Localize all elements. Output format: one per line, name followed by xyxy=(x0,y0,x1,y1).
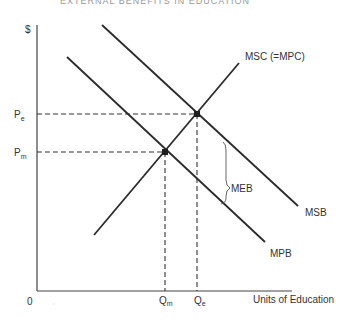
diagram-title: EXTERNAL BENEFITS IN EDUCATION xyxy=(60,0,250,6)
msb-label: MSB xyxy=(305,207,327,218)
pe-label: Pe xyxy=(14,109,25,122)
qm-label: Qm xyxy=(159,295,173,307)
meb-label: MEB xyxy=(231,183,253,194)
external-benefits-diagram: EXTERNAL BENEFITS IN EDUCATION $ 0 Units… xyxy=(0,0,361,324)
y-axis-label: $ xyxy=(25,24,31,35)
origin-label: 0 xyxy=(27,296,33,307)
qe-label: Qe xyxy=(194,295,206,307)
mpb-label: MPB xyxy=(270,248,292,259)
stray-mark: , xyxy=(53,299,55,305)
pm-label: Pm xyxy=(14,147,27,160)
x-axis-label: Units of Education xyxy=(253,294,334,305)
meb-brace xyxy=(221,142,230,204)
msc-label: MSC (=MPC) xyxy=(245,51,305,62)
market-equilibrium-point xyxy=(162,149,168,155)
efficient-equilibrium-point xyxy=(194,111,200,117)
